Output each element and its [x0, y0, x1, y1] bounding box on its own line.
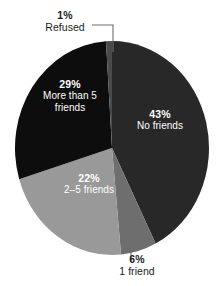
slice-name-one-friend: 1 friend	[98, 265, 176, 277]
pie-chart: 1% Refused 43% No friends 29% More than …	[0, 0, 224, 286]
slice-name-two-to-five-friends: 2–5 friends	[43, 184, 135, 196]
slice-percent-two-to-five-friends: 22%	[43, 172, 135, 184]
pie-slices	[15, 41, 209, 255]
slice-name-more-than-5-friends-line1: More than 5	[22, 90, 118, 102]
slice-percent-no-friends: 43%	[122, 108, 198, 120]
slice-label-two-to-five-friends: 22% 2–5 friends	[43, 172, 135, 196]
slice-name-refused: Refused	[26, 21, 104, 33]
slice-percent-one-friend: 6%	[98, 253, 176, 265]
slice-percent-more-than-5-friends: 29%	[22, 78, 118, 90]
slice-percent-refused: 1%	[26, 9, 104, 21]
slice-label-no-friends: 43% No friends	[122, 108, 198, 132]
pie-chart-graphic	[0, 0, 224, 286]
slice-name-no-friends: No friends	[122, 120, 198, 132]
slice-label-more-than-5-friends: 29% More than 5 friends	[22, 78, 118, 114]
slice-label-refused: 1% Refused	[26, 9, 104, 34]
slice-label-one-friend: 6% 1 friend	[98, 253, 176, 278]
slice-name-more-than-5-friends-line2: friends	[22, 102, 118, 114]
